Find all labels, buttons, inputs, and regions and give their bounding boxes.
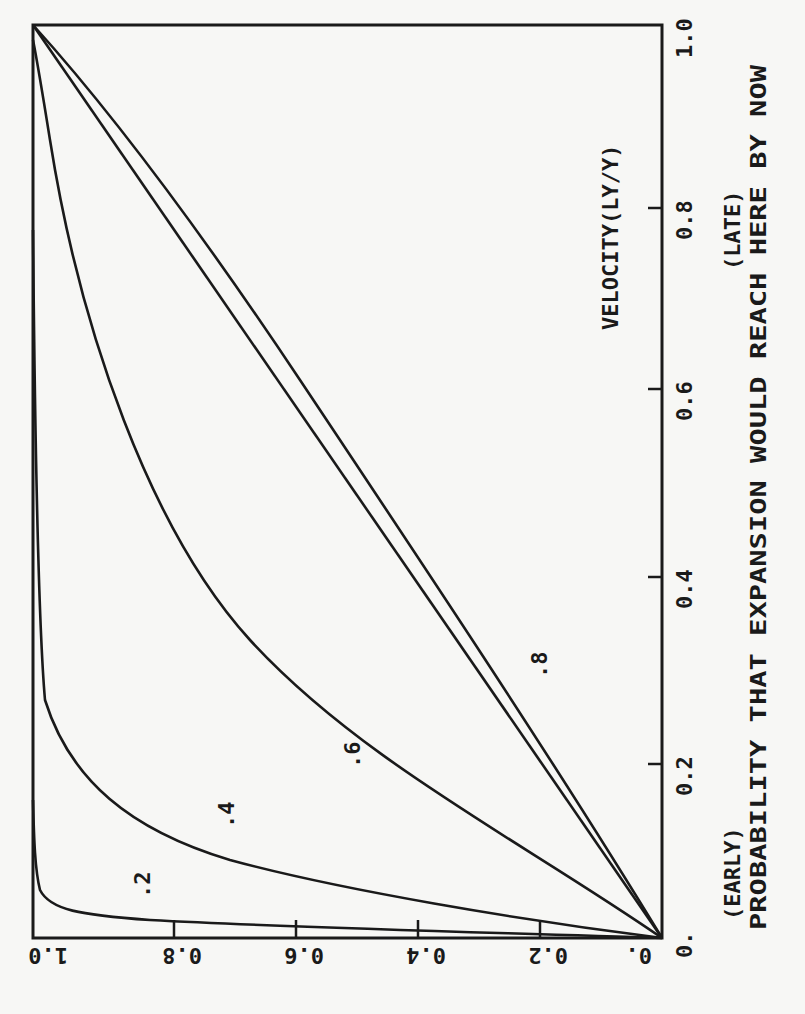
curve-0-2 [33,800,662,938]
chart: .2 .4 .6 .8 0. 0.2 0.4 0.6 0.8 1.0 0. 0.… [0,0,805,1014]
curve-label-8: .8 [527,652,552,679]
curves [33,25,662,938]
svg-text:1.0: 1.0 [28,943,68,968]
svg-text:0.: 0. [626,943,653,968]
svg-text:0.2: 0.2 [528,943,568,968]
curve-label-4: .4 [214,802,239,829]
svg-text:0.: 0. [672,932,697,959]
svg-text:0.4: 0.4 [672,569,697,609]
late-annotation: (LATE) [720,191,745,270]
early-annotation: (EARLY) [720,827,745,920]
svg-text:0.8: 0.8 [672,200,697,240]
svg-text:1.0: 1.0 [672,18,697,58]
curve-1-0 [33,25,662,938]
probability-axis-ticks [648,208,662,764]
curve-label-2: .2 [130,872,155,899]
velocity-tick-labels: 0. 0.2 0.4 0.6 0.8 1.0 [28,943,652,968]
probability-tick-labels: 0. 0.2 0.4 0.6 0.8 1.0 [672,18,697,958]
velocity-axis-title: VELOCITY(LY/Y) [598,145,623,330]
svg-text:0.2: 0.2 [672,756,697,796]
svg-text:0.6: 0.6 [284,943,324,968]
svg-text:0.8: 0.8 [162,943,202,968]
probability-axis-title: PROBABILITY THAT EXPANSION WOULD REACH H… [746,64,771,930]
svg-text:0.4: 0.4 [406,943,446,968]
curve-0-4 [33,230,662,938]
svg-text:0.6: 0.6 [672,381,697,421]
curve-label-6: .6 [340,742,365,769]
